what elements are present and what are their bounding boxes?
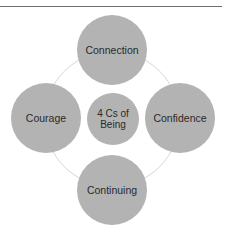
center-label: 4 Cs of Being <box>97 108 129 131</box>
node-connection: Connection <box>77 15 147 85</box>
node-label: Connection <box>85 44 138 56</box>
center-node: 4 Cs of Being <box>87 93 139 145</box>
top-divider-line <box>0 6 222 7</box>
node-continuing: Continuing <box>77 155 147 225</box>
node-courage: Courage <box>11 83 81 153</box>
node-confidence: Confidence <box>145 83 215 153</box>
node-label: Confidence <box>153 112 206 124</box>
node-label: Continuing <box>87 184 137 196</box>
node-label: Courage <box>26 112 66 124</box>
